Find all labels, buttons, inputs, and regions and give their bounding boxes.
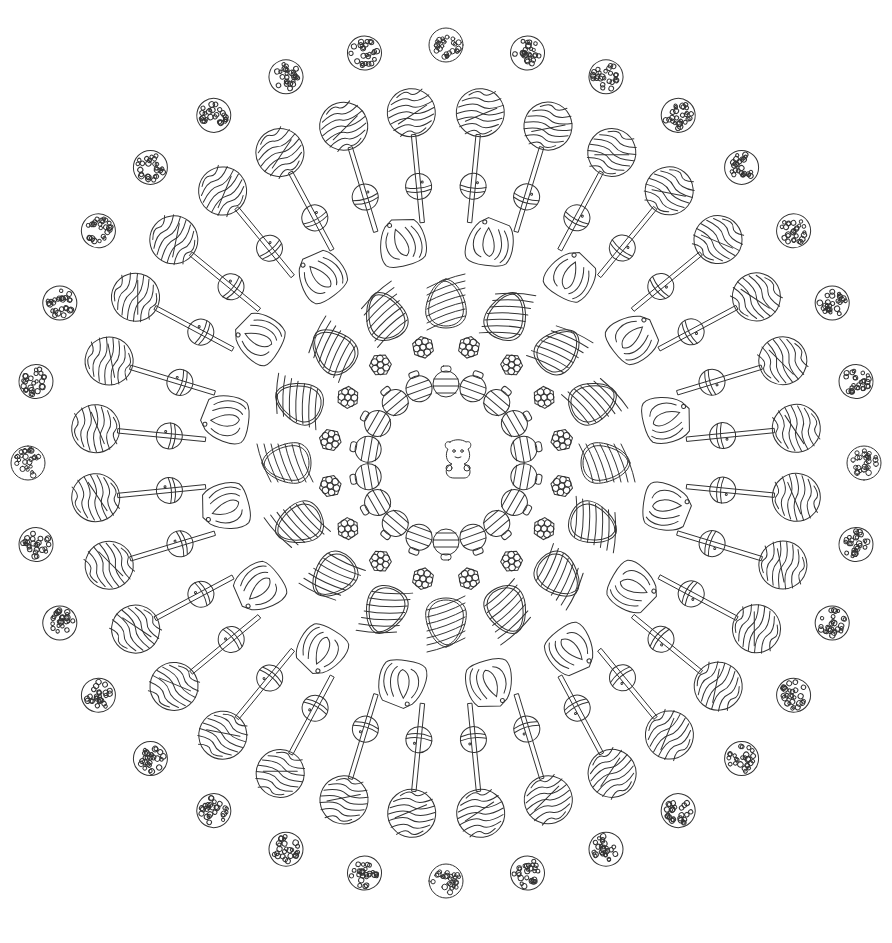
sprinkle-ball-icon — [847, 446, 881, 480]
striped-egg-icon — [426, 596, 467, 652]
lollipop-icon — [385, 704, 437, 840]
gumdrop-icon — [374, 505, 414, 545]
lollipop-icon — [558, 675, 644, 806]
sprinkle-ball-icon — [429, 864, 463, 898]
gumball-icon — [183, 577, 218, 612]
lollipop-head — [724, 596, 789, 661]
lollipop-head — [69, 402, 121, 454]
gumball-icon — [696, 366, 728, 398]
gumdrop-icon — [348, 433, 383, 464]
lollipop-icon — [598, 649, 703, 769]
gumball-icon — [155, 422, 183, 450]
sprinkle-ball-icon — [810, 281, 854, 325]
gumball-icon — [297, 200, 332, 235]
sprinkle-ball-icon — [11, 446, 45, 480]
sprinkle-ball-icon — [75, 207, 122, 254]
lollipop-icon — [385, 86, 437, 222]
gumball-icon — [164, 366, 196, 398]
flower-candy-icon — [366, 350, 394, 379]
striped-egg-icon — [264, 372, 331, 431]
lollipop-icon — [514, 694, 578, 830]
lollipop-icon — [140, 206, 260, 311]
lollipop-head — [189, 157, 257, 225]
gumdrop-icon — [509, 433, 544, 464]
striped-egg-icon — [257, 443, 313, 484]
striped-egg-icon — [561, 495, 628, 554]
flower-candy-icon — [497, 350, 525, 379]
lollipop-head — [684, 652, 752, 720]
gumball-icon — [708, 421, 736, 449]
flower-candy-icon — [411, 566, 434, 591]
sprinkle-ball-icon — [345, 853, 385, 893]
striped-egg-icon — [264, 495, 331, 554]
gumball-icon — [559, 200, 594, 235]
gumdrop-icon — [478, 380, 518, 420]
gumdrop-icon — [356, 403, 396, 441]
gumball-icon — [459, 725, 487, 753]
lollipop-head — [580, 741, 645, 806]
gumdrop-icon — [374, 380, 414, 420]
lollipop-icon — [454, 86, 506, 222]
lollipop-head — [635, 157, 703, 225]
gumdrop-icon — [356, 485, 396, 523]
lollipop-icon — [632, 615, 752, 720]
gumdrop-icon — [433, 366, 459, 397]
flower-candy-icon — [549, 428, 574, 451]
striped-egg-icon — [579, 443, 635, 484]
wrapped-candy-icon — [601, 306, 666, 371]
wrapped-candy-icon — [226, 555, 291, 620]
lollipop-icon — [103, 575, 234, 661]
sprinkle-ball-icon — [810, 601, 854, 645]
gumdrop-icon — [401, 521, 436, 559]
gumdrop-icon — [401, 367, 436, 405]
striped-egg-icon — [478, 578, 537, 645]
sprinkle-ball-icon — [264, 827, 308, 871]
sprinkle-ball-icon — [836, 525, 876, 565]
lollipop-icon — [658, 575, 789, 661]
sprinkle-ball-icon — [770, 207, 817, 254]
sprinkle-ball-icon — [429, 28, 463, 62]
wrapped-candy-icon — [226, 305, 291, 370]
gumball-icon — [298, 691, 333, 726]
sprinkle-ball-icon — [345, 33, 385, 73]
lollipop-head — [636, 701, 704, 769]
sprinkle-ball-icon — [264, 55, 308, 99]
sprinkle-ball-icon — [508, 853, 548, 893]
lollipop-head — [314, 96, 374, 156]
gumdrop-icon — [509, 462, 544, 493]
lollipop-head — [248, 741, 313, 806]
sprinkle-ball-icon — [126, 735, 174, 783]
gumball-icon — [183, 315, 218, 350]
lollipop-icon — [189, 157, 294, 277]
lollipop-head — [770, 471, 822, 523]
sprinkle-ball-icon — [655, 92, 702, 139]
gumball-icon — [560, 691, 595, 726]
gumball-icon — [164, 528, 196, 560]
gumdrop-ring — [348, 366, 544, 560]
striped-egg-icon — [478, 281, 537, 348]
lollipop-head — [518, 770, 578, 830]
wrapped-candy-icon — [288, 617, 353, 682]
sprinkle-ball-icon — [584, 55, 628, 99]
lollipop-head — [140, 206, 208, 274]
sprinkle-ball-icon — [16, 525, 56, 565]
wrapped-candy-icon — [539, 243, 604, 308]
gumball-icon — [155, 476, 183, 504]
lollipop-head — [69, 471, 121, 523]
gumdrop-icon — [478, 505, 518, 545]
gumball-icon — [404, 172, 432, 200]
lollipop-head — [247, 120, 312, 185]
sprinkle-ball-ring — [11, 28, 881, 898]
flower-candy-icon — [549, 474, 574, 497]
lollipop-head — [79, 535, 139, 595]
gumdrop-icon — [433, 529, 459, 560]
lollipop-icon — [248, 675, 334, 806]
gumdrop-icon — [497, 485, 537, 523]
striped-egg-icon — [355, 578, 414, 645]
lollipop-head — [770, 402, 822, 454]
lollipop-icon — [687, 402, 823, 454]
sprinkle-ball-icon — [126, 143, 174, 191]
gumball-icon — [349, 713, 381, 745]
flower-candy-icon — [333, 383, 362, 411]
wrapped-candy-ring — [197, 214, 695, 712]
